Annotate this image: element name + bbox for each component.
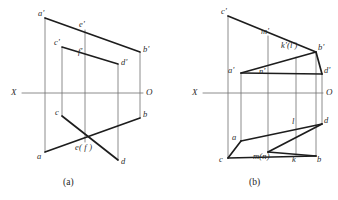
figure-a-label-a: a bbox=[37, 152, 41, 161]
figure-a-seg-a-b bbox=[45, 118, 140, 152]
figure-b-seg-cp-bp bbox=[228, 16, 316, 52]
figure-b-vertical-lines bbox=[228, 16, 322, 158]
figure-b-label-a: a bbox=[232, 133, 236, 142]
figure-a-label-e-prime: e' bbox=[79, 20, 85, 29]
figure-b-label-c-prime: c' bbox=[221, 7, 227, 16]
figure-a-label-d: d bbox=[121, 157, 125, 166]
figure-b-label-c: c bbox=[219, 155, 223, 164]
figure-a-label-c-prime: c' bbox=[54, 38, 60, 47]
figure-b-seg-c-a bbox=[228, 141, 241, 158]
figure-b-seg-ap-dp-slant bbox=[241, 52, 316, 73]
figure-b-label-n-prime: n' bbox=[259, 67, 265, 76]
figure-a-label-b: b bbox=[143, 110, 147, 119]
figure-b-seg-mn-d bbox=[268, 124, 322, 152]
figure-a-seg-c-d bbox=[62, 116, 118, 160]
figure-b-seg-a-d bbox=[241, 124, 322, 141]
figure-b-label-a-prime: a' bbox=[228, 66, 234, 75]
figure-a-seg-cp-dp bbox=[62, 47, 118, 64]
figure-b-caption: (b) bbox=[249, 178, 260, 188]
figure-b-seg-ap-dp bbox=[241, 73, 322, 74]
figure-b-seg-c-b bbox=[228, 156, 316, 158]
figure-b-seg-bp-dp bbox=[316, 52, 322, 74]
figure-b-label-d-prime: d' bbox=[324, 66, 330, 75]
figure-a-label-f-prime: f' bbox=[78, 47, 83, 56]
figure-a-label-b-prime: b' bbox=[143, 45, 149, 54]
figure-a-label-d-prime: d' bbox=[121, 58, 127, 67]
figure-b-label-l: l bbox=[292, 117, 295, 126]
technical-drawing-canvas: a'e'b'c'f'd'cbae( f )dXOc'm'k'(l')b'a'n'… bbox=[0, 0, 338, 200]
figure-b-label-m-prime: m' bbox=[261, 27, 269, 36]
figure-b-edges bbox=[228, 16, 322, 158]
figure-a-axis-label-o: O bbox=[146, 88, 153, 97]
figure-b-axis-label-x: X bbox=[192, 88, 198, 97]
figure-b-label-k: k bbox=[292, 155, 296, 164]
figure-b-label-b: b bbox=[317, 155, 321, 164]
figure-b-label-b-prime: b' bbox=[318, 43, 324, 52]
figure-a-geometry bbox=[0, 0, 338, 200]
figure-a-caption: (a) bbox=[63, 178, 74, 188]
figure-a-label-c: c bbox=[55, 108, 59, 117]
figure-b-label-k-l-prime: k'(l') bbox=[281, 41, 298, 50]
figure-b-label-d: d bbox=[324, 116, 328, 125]
figure-a-label-a-prime: a' bbox=[38, 9, 44, 18]
figure-b-axis-label-o: O bbox=[326, 88, 333, 97]
figure-b-label-m-n: m(n) bbox=[253, 152, 270, 161]
figure-a-axis-label-x: X bbox=[11, 88, 17, 97]
figure-a-label-ef: e( f ) bbox=[75, 143, 92, 152]
